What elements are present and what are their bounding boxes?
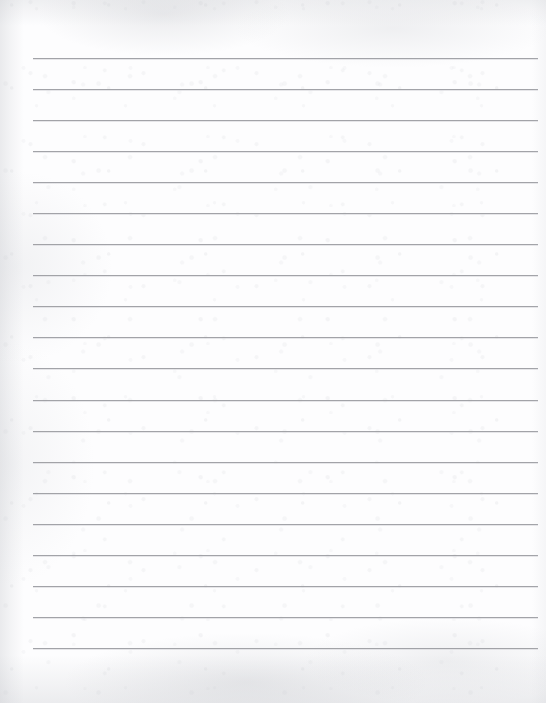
ruled-line	[33, 493, 538, 494]
ruled-line	[33, 617, 538, 618]
ruled-line	[33, 400, 538, 401]
ruled-line	[33, 431, 538, 432]
ruled-line	[33, 120, 538, 121]
ruled-line	[33, 244, 538, 245]
ruled-line	[33, 462, 538, 463]
ruled-line	[33, 58, 538, 59]
ruled-line	[33, 182, 538, 183]
ruled-line	[33, 151, 538, 152]
ruled-line	[33, 586, 538, 587]
ruled-line	[33, 213, 538, 214]
ruled-line	[33, 306, 538, 307]
ruled-line	[33, 337, 538, 338]
ruled-line	[33, 275, 538, 276]
ruled-line	[33, 368, 538, 369]
ruled-lines-group	[0, 0, 546, 703]
ruled-line	[33, 524, 538, 525]
scanned-page	[0, 0, 546, 703]
ruled-line	[33, 555, 538, 556]
ruled-line	[33, 648, 538, 649]
ruled-line	[33, 89, 538, 90]
